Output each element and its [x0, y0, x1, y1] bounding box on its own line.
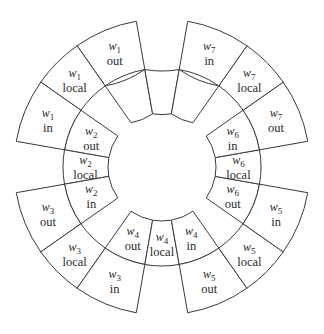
cell-kind-label: local	[150, 245, 175, 259]
cell-kind-label: local	[237, 81, 262, 95]
cell-kind-label: local	[63, 255, 88, 269]
cell-kind-label: out	[83, 139, 100, 153]
cell-kind-label: in	[43, 121, 53, 135]
cell-kind-label: out	[268, 121, 285, 135]
cell-kind-label: in	[228, 139, 238, 153]
cell-kind-label: in	[186, 239, 196, 253]
ring-cells: w0inw0localw0outw2outw2localw2inw4outw4l…	[16, 21, 308, 313]
cell-kind-label: local	[237, 255, 262, 269]
cell-kind-label: out	[107, 54, 124, 68]
cell-kind-label: out	[125, 239, 142, 253]
cell-kind-label: in	[204, 54, 214, 68]
cell-kind-label: local	[63, 81, 88, 95]
cell-kind-label: in	[271, 215, 281, 229]
cell-kind-label: local	[226, 168, 251, 182]
cell-kind-label: out	[40, 215, 57, 229]
cell-kind-label: in	[86, 197, 96, 211]
cell-kind-label: in	[110, 282, 120, 296]
ring-diagram: w0inw0localw0outw2outw2localw2inw4outw4l…	[0, 0, 324, 334]
cell-kind-label: out	[201, 282, 218, 296]
cell-kind-label: out	[225, 197, 242, 211]
